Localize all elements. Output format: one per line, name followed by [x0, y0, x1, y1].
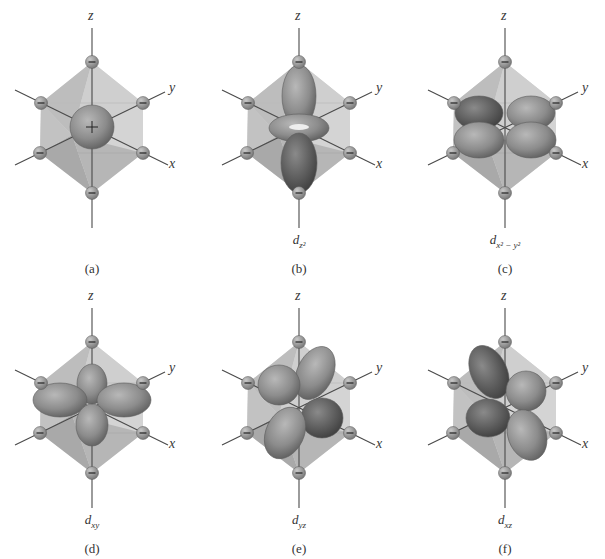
ligand-icon [550, 147, 563, 160]
ligand-icon [242, 97, 255, 110]
axis-label-x: x [376, 436, 382, 452]
ligand-icon [137, 147, 150, 160]
ligand-icon [293, 187, 306, 200]
axis-label-z: z [295, 288, 300, 304]
axis-label-z: z [88, 288, 93, 304]
panel-label: (a) [85, 261, 99, 277]
axis-label-z: z [88, 8, 93, 24]
orbital-lobes [70, 105, 114, 149]
ligand-icon [137, 427, 150, 440]
panel-label: (e) [292, 541, 306, 557]
axis-label-y: y [376, 80, 382, 96]
panel-label: (c) [498, 261, 512, 277]
ligand-icon [448, 377, 461, 390]
ligand-icon [137, 97, 150, 110]
panel-d: zyxdxy(d) [0, 280, 200, 559]
panel-a: zyx(a) [0, 0, 200, 280]
octahedron-diagram [0, 0, 200, 280]
axis-label-y: y [376, 360, 382, 376]
ligand-icon [344, 147, 357, 160]
panel-f: zyxdxz(f) [413, 280, 605, 559]
orbital-label: dxy [85, 512, 100, 530]
panel-label: (b) [291, 261, 306, 277]
ligand-icon [344, 427, 357, 440]
ligand-icon [448, 97, 461, 110]
ligand-icon [86, 467, 99, 480]
axis-label-x: x [582, 436, 588, 452]
ligand-icon [550, 427, 563, 440]
ligand-icon [344, 377, 357, 390]
panel-label: (d) [84, 541, 99, 557]
orbital-label: dz² [293, 232, 306, 250]
ligand-icon [550, 377, 563, 390]
ligand-icon [344, 97, 357, 110]
ligand-icon [242, 377, 255, 390]
ligand-icon [447, 427, 460, 440]
orbital-label: dyz [292, 512, 306, 530]
axis-label-y: y [169, 80, 175, 96]
ligand-icon [293, 336, 306, 349]
ligand-icon [447, 147, 460, 160]
orbital-label: dx² − y² [490, 232, 520, 250]
octahedron-diagram [207, 0, 407, 280]
ligand-icon [499, 336, 512, 349]
ligand-icon [499, 187, 512, 200]
ligand-icon [241, 147, 254, 160]
octahedron-diagram [207, 280, 407, 559]
ligand-icon [137, 377, 150, 390]
panel-b: zyxdz²(b) [207, 0, 407, 280]
ligand-icon [293, 467, 306, 480]
ligand-icon [293, 56, 306, 69]
ligand-icon [86, 56, 99, 69]
ligand-icon [499, 56, 512, 69]
axis-label-x: x [169, 156, 175, 172]
ligand-icon [86, 187, 99, 200]
panel-label: (f) [499, 541, 512, 557]
ligand-icon [34, 147, 47, 160]
axis-label-x: x [582, 156, 588, 172]
ligand-icon [34, 427, 47, 440]
axis-label-z: z [295, 8, 300, 24]
ligand-icon [550, 97, 563, 110]
axis-label-y: y [582, 360, 588, 376]
ligand-icon [35, 97, 48, 110]
ligand-icon [35, 377, 48, 390]
axis-label-z: z [501, 8, 506, 24]
panel-e: zyxdyz(e) [207, 280, 407, 559]
octahedron-diagram [0, 280, 200, 559]
axis-label-y: y [582, 80, 588, 96]
ligand-icon [241, 427, 254, 440]
axis-label-x: x [376, 156, 382, 172]
ligand-icon [499, 467, 512, 480]
axis-label-y: y [169, 360, 175, 376]
axis-label-z: z [501, 288, 506, 304]
panel-c: zyxdx² − y²(c) [413, 0, 605, 280]
ligand-icon [86, 336, 99, 349]
orbital-label: dxz [498, 512, 512, 530]
axis-label-x: x [169, 436, 175, 452]
